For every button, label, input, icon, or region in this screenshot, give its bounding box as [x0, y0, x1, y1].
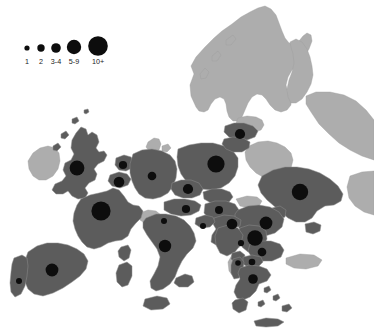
data-symbol-amsterdam	[119, 161, 127, 169]
data-symbol-bucharest	[260, 217, 273, 230]
legend-symbol-5-9	[67, 40, 81, 54]
legend-label: 2	[39, 57, 43, 66]
europe-symbol-map: 123-45-910+	[0, 0, 374, 336]
data-symbol-warsaw	[207, 155, 224, 172]
data-symbol-budapest	[215, 206, 223, 214]
data-symbol-tirana	[235, 260, 241, 266]
legend-symbol-2	[37, 44, 44, 51]
map-canvas: 123-45-910+	[0, 0, 374, 336]
data-symbol-belgrade	[247, 230, 262, 245]
legend-label: 1	[25, 57, 29, 66]
legend-label: 10+	[92, 57, 104, 66]
legend-symbol-1	[24, 45, 29, 50]
data-symbol-madrid	[46, 264, 59, 277]
legend-symbol-3-4	[51, 43, 61, 53]
data-symbol-brussels	[114, 177, 125, 188]
data-symbol-riga	[235, 129, 245, 139]
data-symbol-prague	[183, 184, 193, 194]
data-symbol-bratislava	[161, 218, 167, 224]
legend-label: 3-4	[51, 57, 61, 66]
data-symbol-vienna	[182, 205, 190, 213]
data-symbol-berlin	[148, 172, 157, 181]
legend-label: 5-9	[69, 57, 79, 66]
data-symbol-sofia	[258, 248, 267, 257]
data-symbol-lisbon	[16, 278, 22, 284]
data-symbol-kyiv	[292, 184, 308, 200]
data-symbol-ljubljana	[200, 223, 206, 229]
data-symbol-athens	[248, 274, 258, 284]
data-symbol-skopje	[249, 259, 256, 266]
data-symbol-sarajevo	[238, 240, 244, 246]
data-symbol-zagreb	[227, 219, 238, 230]
data-symbol-paris	[91, 201, 110, 220]
data-symbol-london	[70, 161, 85, 176]
legend-symbol-10plus	[88, 36, 108, 56]
data-symbol-rome	[159, 240, 171, 252]
